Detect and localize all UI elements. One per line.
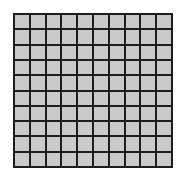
grid-cell (157, 107, 171, 120)
grid-cell (126, 46, 140, 59)
grid-cell (62, 30, 76, 43)
grid-cell (15, 107, 29, 120)
grid-cell (62, 153, 76, 166)
grid-cell (31, 122, 45, 135)
grid-cell (141, 122, 155, 135)
grid-cell (94, 61, 108, 74)
grid-cell (110, 92, 124, 105)
grid-cell (110, 137, 124, 150)
grid-cell (62, 137, 76, 150)
grid-cell (94, 153, 108, 166)
grid-cell (47, 137, 61, 150)
grid-cell (157, 76, 171, 89)
grid-cell (31, 30, 45, 43)
grid-cell (110, 46, 124, 59)
grid-cell (47, 153, 61, 166)
grid-cell (47, 92, 61, 105)
grid-cell (141, 153, 155, 166)
grid-cell (141, 61, 155, 74)
grid-cell (62, 61, 76, 74)
grid-cell (78, 107, 92, 120)
grid-cell (15, 137, 29, 150)
grid-cell (62, 122, 76, 135)
grid-cell (110, 107, 124, 120)
grid-cell (157, 61, 171, 74)
grid-cell (78, 30, 92, 43)
grid-cell (126, 15, 140, 28)
grid-cell (15, 92, 29, 105)
grid-cell (78, 15, 92, 28)
grid-cell (126, 92, 140, 105)
grid-cell (126, 76, 140, 89)
grid-cell (126, 153, 140, 166)
grid-cell (47, 76, 61, 89)
grid-cell (78, 137, 92, 150)
grid-cell (47, 30, 61, 43)
grid-cell (47, 46, 61, 59)
grid-cell (78, 153, 92, 166)
grid-cell (31, 137, 45, 150)
grid-cell (31, 92, 45, 105)
grid-cell (126, 30, 140, 43)
grid-cell (157, 137, 171, 150)
grid-cell (157, 46, 171, 59)
grid-cell (141, 46, 155, 59)
grid-cell (15, 153, 29, 166)
grid-cell (94, 76, 108, 89)
grid-cell (47, 61, 61, 74)
grid-cell (78, 76, 92, 89)
grid-cell (31, 76, 45, 89)
grid-cell (62, 46, 76, 59)
grid-cell (110, 153, 124, 166)
grid-cell (141, 107, 155, 120)
grid-cell (141, 15, 155, 28)
grid-cell (15, 46, 29, 59)
grid-cell (126, 137, 140, 150)
grid-cell (78, 46, 92, 59)
grid (13, 13, 173, 168)
grid-cell (94, 92, 108, 105)
grid-cell (31, 15, 45, 28)
grid-cell (31, 107, 45, 120)
grid-cell (157, 30, 171, 43)
grid-cell (47, 122, 61, 135)
grid-cell (94, 137, 108, 150)
grid-cell (62, 92, 76, 105)
grid-cell (15, 122, 29, 135)
grid-cell (31, 46, 45, 59)
grid-cell (141, 92, 155, 105)
grid-cell (15, 30, 29, 43)
grid-cell (15, 61, 29, 74)
grid-cell (141, 76, 155, 89)
grid-cell (31, 153, 45, 166)
grid-cell (62, 15, 76, 28)
grid-cell (47, 15, 61, 28)
grid-cell (94, 122, 108, 135)
grid-cell (94, 107, 108, 120)
grid-cell (157, 15, 171, 28)
grid-cell (110, 30, 124, 43)
grid-cell (157, 153, 171, 166)
grid-cell (126, 107, 140, 120)
grid-cell (110, 15, 124, 28)
grid-cell (141, 30, 155, 43)
grid-cell (94, 15, 108, 28)
grid-cell (31, 61, 45, 74)
grid-cell (15, 15, 29, 28)
grid-cell (110, 61, 124, 74)
grid-cell (110, 76, 124, 89)
grid-cell (94, 46, 108, 59)
grid-cell (62, 76, 76, 89)
grid-cell (157, 92, 171, 105)
grid-cell (62, 107, 76, 120)
grid-cell (126, 122, 140, 135)
grid-cell (157, 122, 171, 135)
grid-cell (94, 30, 108, 43)
grid-cell (78, 122, 92, 135)
grid-cell (78, 61, 92, 74)
grid-cell (110, 122, 124, 135)
grid-cell (141, 137, 155, 150)
grid-cell (78, 92, 92, 105)
grid-cell (126, 61, 140, 74)
grid-cell (47, 107, 61, 120)
